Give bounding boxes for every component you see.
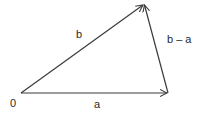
- vector-b-minus-a-arrow: [145, 5, 169, 93]
- vector-diagram: 0 a b b – a: [0, 0, 201, 113]
- vector-a-label: a: [94, 98, 101, 110]
- vector-b-minus-a-label: b – a: [167, 33, 192, 45]
- origin-label: 0: [10, 97, 16, 109]
- vector-b-label: b: [76, 28, 82, 40]
- vector-b-arrow: [21, 5, 143, 93]
